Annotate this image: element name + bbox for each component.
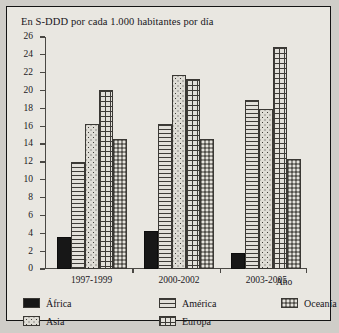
x-tick (220, 269, 221, 273)
bar-europa-1997-1999 (99, 90, 113, 269)
y-tick: 24 (40, 54, 45, 55)
y-tick: 22 (40, 72, 45, 73)
y-tick: 14 (40, 143, 45, 144)
legend-item-europa[interactable]: Europa (159, 313, 216, 329)
y-tick-label: 18 (24, 103, 34, 113)
y-tick-label: 2 (28, 246, 33, 256)
legend-swatch-america (159, 298, 176, 308)
bar-oceanía-1997-1999 (113, 139, 127, 269)
y-tick: 4 (40, 233, 45, 234)
y-tick: 26 (40, 36, 45, 37)
y-tick-label: 4 (28, 228, 33, 238)
y-tick: 12 (40, 161, 45, 162)
plot-area: 02468101214161820222426 1997-19992000-20… (45, 37, 307, 269)
legend-column: AméricaEuropa (159, 295, 216, 331)
y-tick: 10 (40, 179, 45, 180)
legend-item-oceania[interactable]: Oceanía (281, 295, 337, 311)
bar-asia-1997-1999 (85, 124, 99, 269)
y-tick-label: 24 (24, 49, 34, 59)
bar-group (57, 37, 127, 269)
bar-américa-2000-2002 (158, 124, 172, 269)
y-tick-label: 16 (24, 121, 34, 131)
bar-oceanía-2000-2002 (200, 139, 214, 269)
legend-swatch-europa (159, 316, 176, 326)
bar-áfrica-1997-1999 (57, 237, 71, 269)
bar-américa-2003-2005 (245, 100, 259, 269)
y-tick-label: 14 (24, 138, 34, 148)
x-category-label: 1997-1999 (71, 275, 112, 285)
legend-label: Oceanía (304, 298, 337, 309)
y-tick-label: 26 (24, 31, 34, 41)
y-tick: 16 (40, 126, 45, 127)
y-tick-label: 0 (28, 263, 33, 273)
bar-europa-2000-2002 (186, 79, 200, 269)
y-tick: 18 (40, 108, 45, 109)
legend-label: América (182, 298, 216, 309)
y-tick-label: 6 (28, 210, 33, 220)
bar-europa-2003-2005 (273, 47, 287, 269)
legend-item-asia[interactable]: Asia (23, 313, 72, 329)
bar-group (144, 37, 214, 269)
legend-swatch-oceania (281, 298, 298, 308)
y-tick-label: 10 (24, 174, 34, 184)
bar-américa-1997-1999 (71, 162, 85, 269)
bar-group (231, 37, 301, 269)
chart-title: En S-DDD por cada 1.000 habitantes por d… (21, 16, 214, 27)
legend-label: Asia (46, 316, 64, 327)
y-axis-line (45, 37, 46, 269)
y-tick: 20 (40, 90, 45, 91)
legend-swatch-africa (23, 298, 40, 308)
legend-swatch-asia (23, 316, 40, 326)
legend-label: África (46, 298, 72, 309)
y-tick-label: 22 (24, 67, 34, 77)
x-category-label: 2000-2002 (158, 275, 199, 285)
legend-item-america[interactable]: América (159, 295, 216, 311)
legend-column: Oceanía (281, 295, 337, 313)
y-tick-label: 8 (28, 192, 33, 202)
y-tick-label: 20 (24, 85, 34, 95)
y-tick: 0 (40, 268, 45, 269)
legend-item-africa[interactable]: África (23, 295, 72, 311)
bar-áfrica-2000-2002 (144, 231, 158, 269)
bar-asia-2003-2005 (259, 109, 273, 269)
bar-asia-2000-2002 (172, 75, 186, 269)
y-tick: 2 (40, 251, 45, 252)
bar-oceanía-2003-2005 (287, 159, 301, 269)
bar-áfrica-2003-2005 (231, 253, 245, 269)
legend-label: Europa (182, 316, 211, 327)
legend-column: ÁfricaAsia (23, 295, 72, 331)
x-tick (306, 269, 307, 273)
x-axis-title: Año (276, 277, 292, 287)
x-tick (132, 269, 133, 273)
y-tick: 8 (40, 197, 45, 198)
chart-frame: En S-DDD por cada 1.000 habitantes por d… (6, 6, 331, 321)
y-tick: 6 (40, 215, 45, 216)
y-tick-label: 12 (24, 156, 34, 166)
